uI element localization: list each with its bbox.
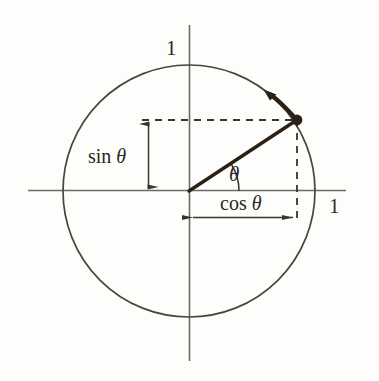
figure-canvas xyxy=(0,0,379,381)
cosine-label: cos θ xyxy=(220,193,262,213)
cosine-theta-symbol: θ xyxy=(252,192,262,214)
sine-prefix-text: sin xyxy=(88,145,111,167)
unit-circle-figure: 1 1 sin θ cos θ θ xyxy=(0,0,379,381)
tangent-direction-arrow xyxy=(271,95,297,120)
x-axis-unit-label: 1 xyxy=(329,196,340,217)
angle-theta-label: θ xyxy=(229,164,239,185)
sine-theta-symbol: θ xyxy=(116,145,126,167)
radius-ray xyxy=(189,121,296,192)
sine-label: sin θ xyxy=(88,146,126,166)
cosine-prefix-text: cos xyxy=(220,192,247,214)
y-axis-unit-label: 1 xyxy=(166,38,177,59)
point-on-circle xyxy=(292,115,303,126)
